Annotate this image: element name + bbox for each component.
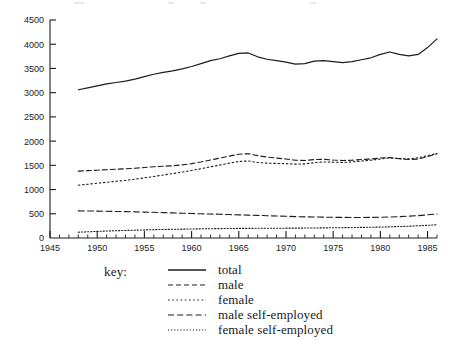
svg-text:1965: 1965: [229, 243, 249, 253]
legend-entry-label: male self-employed: [218, 307, 323, 323]
legend-entry-label: female: [218, 292, 254, 308]
x-axis-tick-labels: 194519501955196019651970197519801985: [40, 243, 438, 253]
legend-entry-label: total: [218, 262, 242, 278]
legend-entry-label: male: [218, 277, 244, 293]
legend-swatch-solid-icon: [168, 263, 208, 277]
svg-text:500: 500: [29, 209, 44, 219]
svg-text:1970: 1970: [276, 243, 296, 253]
y-axis-ticks: [50, 20, 56, 214]
y-axis-tick-labels: 050010001500200025003000350040004500: [24, 15, 44, 243]
svg-text:3500: 3500: [24, 64, 44, 74]
series-line-total: [78, 39, 437, 90]
svg-text:1950: 1950: [87, 243, 107, 253]
legend-entry-list: totalmalefemalemale self-employedfemale …: [168, 262, 333, 337]
svg-text:4000: 4000: [24, 40, 44, 50]
svg-text:1985: 1985: [418, 243, 438, 253]
svg-text:1960: 1960: [182, 243, 202, 253]
svg-text:3000: 3000: [24, 88, 44, 98]
x-axis-ticks: [50, 231, 437, 238]
svg-text:1500: 1500: [24, 161, 44, 171]
svg-text:1980: 1980: [370, 243, 390, 253]
data-series: [78, 39, 437, 232]
series-line-female: [78, 153, 437, 185]
legend-entry: female self-employed: [168, 322, 333, 337]
chart-legend: key: totalmalefemalemale self-employedfe…: [0, 262, 459, 340]
svg-text:2000: 2000: [24, 137, 44, 147]
svg-text:1975: 1975: [323, 243, 343, 253]
plot-area: 050010001500200025003000350040004500 194…: [0, 0, 459, 270]
series-line-male-self-employed: [78, 211, 437, 218]
legend-swatch-dotted-icon: [168, 293, 208, 307]
legend-entry: male: [168, 277, 333, 292]
legend-key-label: key:: [104, 264, 127, 280]
svg-text:2500: 2500: [24, 112, 44, 122]
legend-swatch-dashed-icon: [168, 278, 208, 292]
legend-entry: female: [168, 292, 333, 307]
svg-text:1945: 1945: [40, 243, 60, 253]
legend-swatch-longdash-icon: [168, 308, 208, 322]
svg-text:1955: 1955: [134, 243, 154, 253]
svg-text:1000: 1000: [24, 185, 44, 195]
legend-swatch-fine-dotted-icon: [168, 323, 208, 337]
svg-text:4500: 4500: [24, 15, 44, 25]
line-chart-figure: 050010001500200025003000350040004500 194…: [0, 0, 459, 340]
legend-entry: total: [168, 262, 333, 277]
legend-entry: male self-employed: [168, 307, 333, 322]
svg-text:0: 0: [39, 233, 44, 243]
series-line-female-self-employed: [78, 225, 437, 232]
legend-entry-label: female self-employed: [218, 322, 333, 338]
